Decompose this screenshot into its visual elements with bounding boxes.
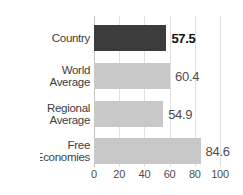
x-axis-tick-label: 60 <box>164 168 176 180</box>
value-label-free-economies: 84.6 <box>206 138 230 164</box>
category-label-free-economies: FreeEconomies <box>40 138 90 164</box>
bar-free-economies <box>94 138 201 164</box>
value-label-country: 57.5 <box>171 25 195 51</box>
value-label-regional-average: 54.9 <box>168 101 192 127</box>
bar-regional-average <box>94 101 163 127</box>
bar-chart: 020406080100Country57.5WorldAverage60.4R… <box>40 16 243 195</box>
bar-country <box>94 25 166 51</box>
bar-world-average <box>94 63 170 89</box>
x-axis-tick-label: 100 <box>211 168 228 180</box>
x-axis-tick-label: 80 <box>189 168 201 180</box>
value-label-world-average: 60.4 <box>175 63 199 89</box>
x-axis-tick-label: 20 <box>113 168 125 180</box>
x-axis-tick-label: 0 <box>91 168 97 180</box>
x-axis-tick-label: 40 <box>139 168 151 180</box>
category-label-country: Country <box>40 25 90 51</box>
category-label-world-average: WorldAverage <box>40 63 90 89</box>
category-label-regional-average: RegionalAverage <box>40 101 90 127</box>
